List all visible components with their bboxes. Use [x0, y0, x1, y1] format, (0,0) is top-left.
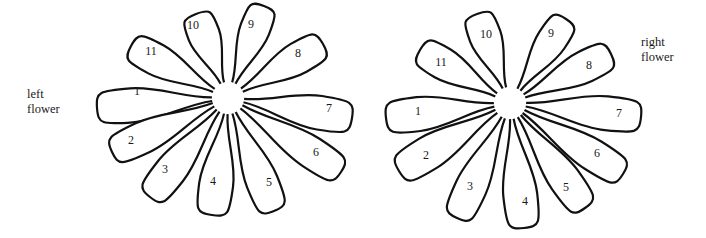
left-petal-number-2: 2	[128, 133, 134, 147]
left-petal-number-8: 8	[295, 46, 301, 60]
right-petal-number-6: 6	[594, 146, 600, 160]
left-petal-number-3: 3	[162, 162, 168, 176]
right-flower: 1234567891011	[386, 11, 642, 228]
right-flower-label: right flower	[641, 35, 674, 65]
left-flower: 1234567891011	[97, 4, 353, 216]
right-petal-number-3: 3	[467, 179, 473, 193]
left-petal-number-1: 1	[134, 84, 140, 98]
left-petal-number-10: 10	[187, 18, 199, 32]
right-petal-number-7: 7	[616, 106, 622, 120]
left-petal-number-5: 5	[266, 175, 272, 189]
right-petal-number-11: 11	[435, 55, 447, 69]
left-label-line1: left	[27, 87, 60, 102]
right-petal-number-5: 5	[563, 180, 569, 194]
left-flower-label: left flower	[27, 87, 60, 117]
right-petal-number-10: 10	[480, 27, 492, 41]
right-petal-number-9: 9	[548, 26, 554, 40]
left-petal-number-9: 9	[248, 17, 254, 31]
left-petal-number-11: 11	[145, 44, 157, 58]
flower-diagram: 1234567891011 1234567891011	[0, 0, 706, 238]
left-petal-number-7: 7	[326, 101, 332, 115]
left-petal-number-4: 4	[210, 174, 216, 188]
right-petal-number-1: 1	[415, 104, 421, 118]
right-petal-number-4: 4	[522, 194, 528, 208]
right-label-line2: flower	[641, 50, 674, 65]
left-label-line2: flower	[27, 102, 60, 117]
right-petal-number-8: 8	[586, 58, 592, 72]
right-petal-number-2: 2	[423, 148, 429, 162]
right-label-line1: right	[641, 35, 674, 50]
left-petal-number-6: 6	[313, 145, 319, 159]
